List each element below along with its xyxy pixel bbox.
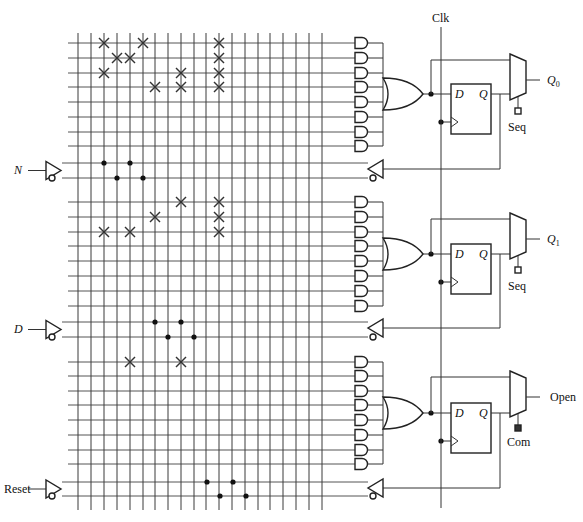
and-gate-icon bbox=[355, 227, 368, 238]
junction-dot bbox=[127, 160, 132, 165]
and-gate-icon bbox=[355, 53, 368, 64]
programmable-and-array bbox=[62, 33, 368, 510]
d-flipflop bbox=[451, 84, 491, 134]
macrocell-0 bbox=[355, 38, 540, 182]
junction-dot bbox=[101, 160, 106, 165]
and-gate-icon bbox=[355, 371, 368, 382]
and-gate-icon bbox=[355, 386, 368, 397]
or-gate-icon bbox=[383, 78, 423, 110]
junction-dot bbox=[152, 319, 157, 324]
and-gate-icon bbox=[355, 212, 368, 223]
junction-dot bbox=[230, 479, 235, 484]
and-gate-icon bbox=[355, 271, 368, 282]
input-buffer-icon bbox=[28, 480, 61, 499]
inverter-bubble-icon bbox=[370, 175, 376, 181]
junction-dot bbox=[243, 493, 248, 498]
junction-dot bbox=[178, 319, 183, 324]
and-gate-icon bbox=[355, 38, 368, 49]
macrocell-1 bbox=[355, 197, 540, 341]
and-gate-icon bbox=[355, 127, 368, 138]
or-gate-icon bbox=[383, 397, 423, 429]
mux-icon bbox=[510, 54, 526, 100]
and-gate-icon bbox=[355, 400, 368, 411]
junction-dot bbox=[165, 334, 170, 339]
input-buffer-icon bbox=[28, 321, 61, 341]
and-gate-icon bbox=[355, 357, 368, 368]
and-gate-icon bbox=[355, 459, 368, 470]
macrocell-2 bbox=[355, 357, 540, 500]
and-gate-icon bbox=[355, 97, 368, 108]
select-input-icon bbox=[515, 108, 521, 114]
mux-icon bbox=[510, 371, 526, 417]
input-buffers bbox=[28, 160, 249, 499]
and-gate-icon bbox=[355, 141, 368, 152]
and-gate-icon bbox=[355, 112, 368, 123]
and-gate-icon bbox=[355, 415, 368, 426]
and-gate-icon bbox=[355, 82, 368, 93]
and-gate-icon bbox=[355, 286, 368, 297]
input-buffer-icon bbox=[28, 162, 61, 182]
and-gate-icon bbox=[355, 445, 368, 456]
inverter-bubble-icon bbox=[370, 493, 376, 499]
junction-dot bbox=[140, 175, 145, 180]
junction-dot bbox=[114, 175, 119, 180]
select-input-filled-icon bbox=[515, 425, 521, 431]
and-gate-icon bbox=[355, 301, 368, 312]
junction-dot bbox=[204, 479, 209, 484]
d-flipflop bbox=[451, 403, 491, 453]
mux-icon bbox=[510, 213, 526, 259]
select-input-icon bbox=[515, 267, 521, 273]
inverter-bubble-icon bbox=[370, 334, 376, 340]
macrocells bbox=[355, 38, 540, 500]
d-flipflop bbox=[451, 244, 491, 294]
junction-dot bbox=[191, 334, 196, 339]
and-gate-icon bbox=[355, 430, 368, 441]
and-gate-icon bbox=[355, 68, 368, 79]
and-gate-icon bbox=[355, 256, 368, 267]
junction-dot bbox=[217, 493, 222, 498]
pld-diagram bbox=[0, 0, 583, 522]
and-gate-icon bbox=[355, 197, 368, 208]
and-gate-icon bbox=[355, 241, 368, 252]
or-gate-icon bbox=[383, 238, 423, 270]
